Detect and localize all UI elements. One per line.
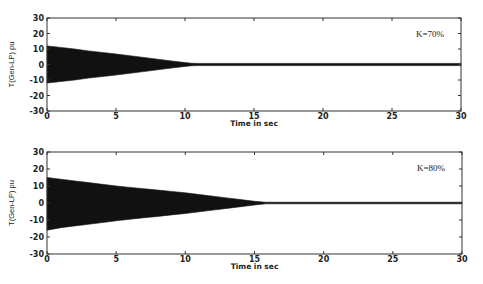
subplot-1: 0510152025303020100-10-20-30Time in secT… — [7, 14, 467, 128]
x-tick-label: 25 — [387, 255, 399, 264]
y-tick-label: 0 — [38, 199, 44, 208]
y-tick-label: -20 — [30, 92, 45, 101]
x-axis-label: Time in sec — [230, 119, 278, 128]
y-tick-label: 20 — [33, 165, 45, 174]
x-tick-label: 10 — [180, 255, 192, 264]
y-axis-label: T(Gen-LP) pu — [7, 180, 16, 226]
gain-annotation: K=70% — [416, 29, 445, 39]
y-tick-label: -20 — [30, 233, 45, 242]
y-axis-label: T(Gen-LP) pu — [7, 42, 16, 88]
y-tick-label: -10 — [30, 76, 45, 85]
oscillation-envelope — [47, 178, 462, 231]
x-tick-label: 30 — [456, 255, 468, 264]
x-tick-label: 5 — [113, 112, 119, 121]
x-tick-label: 25 — [386, 112, 398, 121]
y-tick-label: 10 — [33, 182, 45, 191]
y-tick-label: 30 — [33, 14, 45, 23]
x-tick-label: 20 — [318, 255, 330, 264]
y-tick-label: 0 — [38, 61, 44, 70]
y-tick-label: -10 — [30, 216, 45, 225]
x-tick-label: 20 — [317, 112, 329, 121]
x-tick-label: 10 — [179, 112, 191, 121]
y-tick-label: -30 — [30, 250, 45, 259]
y-tick-label: 30 — [33, 148, 45, 157]
gain-annotation: K=80% — [417, 163, 446, 173]
y-tick-label: 20 — [33, 30, 45, 39]
y-tick-label: -30 — [30, 107, 45, 116]
y-tick-label: 10 — [33, 45, 45, 54]
x-tick-label: 30 — [455, 112, 467, 121]
oscillation-envelope — [47, 46, 461, 83]
x-tick-label: 0 — [44, 255, 50, 264]
x-tick-label: 0 — [44, 112, 50, 121]
x-tick-label: 5 — [113, 255, 119, 264]
subplot-2: 0510152025303020100-10-20-30Time in secT… — [7, 148, 468, 271]
x-axis-label: Time in sec — [231, 262, 279, 271]
chart-figure: 0510152025303020100-10-20-30Time in secT… — [0, 0, 483, 284]
